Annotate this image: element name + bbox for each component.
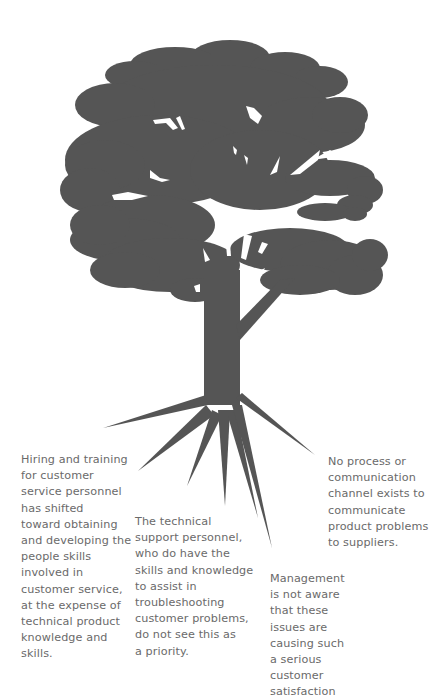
caption-technical-support: The technical support personnel, who do …: [135, 514, 260, 660]
caption-hiring-training: Hiring and training for customer service…: [21, 452, 136, 663]
tree-canopy: [60, 40, 388, 302]
caption-management-awareness: Management is not aware that these issue…: [270, 571, 360, 699]
tree-trunk: [204, 270, 295, 405]
caption-supplier-communication: No process or communication channel exis…: [328, 454, 440, 551]
